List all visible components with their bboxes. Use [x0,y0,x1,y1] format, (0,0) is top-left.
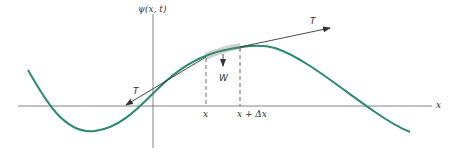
point-x-label: x [203,109,208,119]
y-axis-label: ψ(x, t) [138,4,167,14]
string-wave-diagram: ψ(x, t) x T T W x x + Δx [0,0,458,154]
wave-curve [28,46,410,132]
tension-vector-right [240,28,330,47]
tension-label-right: T [310,16,317,26]
tension-label-left: T [133,86,140,96]
x-axis-label: x [436,100,441,110]
point-x-dx-label: x + Δx [237,109,267,119]
weight-label: W [219,73,229,83]
tension-vector-left [126,57,206,105]
